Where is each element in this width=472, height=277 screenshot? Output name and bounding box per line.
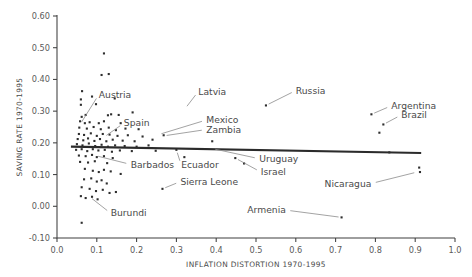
x-tick-label: 0.7 (329, 245, 342, 255)
x-tick-label: 0.2 (130, 245, 143, 255)
annotation-label: Spain (124, 117, 150, 128)
data-point (90, 132, 92, 134)
annotation-label: Sierra Leone (180, 176, 238, 187)
data-point (106, 182, 108, 184)
data-point (142, 135, 144, 137)
y-tick-label: 0.60 (32, 11, 50, 21)
data-point (92, 170, 94, 172)
data-point (341, 216, 343, 218)
data-point (101, 179, 103, 181)
data-point (100, 128, 102, 130)
data-point (110, 170, 112, 172)
y-tick-label: 0.00 (32, 201, 50, 211)
annotation-leader (374, 108, 387, 114)
data-point (78, 154, 80, 156)
annotation-label: Barbados (131, 159, 175, 170)
data-point (98, 171, 100, 173)
data-point (114, 144, 116, 146)
data-point (93, 140, 95, 142)
x-axis-title: INFLATION DISTORTION 1970-1995 (186, 260, 326, 269)
data-point (78, 133, 80, 135)
data-point (111, 151, 113, 153)
annotation-leader (376, 173, 414, 183)
annotation-label: Uruguay (259, 153, 299, 164)
data-point (97, 149, 99, 151)
data-point (163, 134, 165, 136)
data-point (107, 114, 109, 116)
data-point (382, 123, 384, 125)
data-point (119, 149, 121, 151)
data-point (370, 113, 372, 115)
data-point (97, 198, 99, 200)
annotation-leader (165, 183, 176, 187)
annotation-label: Latvia (198, 86, 226, 97)
data-point (91, 196, 93, 198)
data-point (103, 155, 105, 157)
data-point (86, 128, 88, 130)
data-point (108, 127, 110, 129)
data-point (134, 140, 136, 142)
y-tick-label: 0.10 (32, 170, 50, 180)
data-point (155, 150, 157, 152)
data-point (81, 222, 83, 224)
y-tick-label: 0.30 (32, 106, 50, 116)
data-point (78, 127, 80, 129)
y-axis-title: SAVING RATE 1970-1995 (15, 78, 24, 177)
plot-area: -0.100.000.100.200.300.400.500.600.00.10… (0, 0, 472, 277)
data-point (105, 140, 107, 142)
data-point (92, 148, 94, 150)
data-point (87, 161, 89, 163)
annotation-label: Nicaragua (325, 178, 372, 189)
y-tick-label: -0.10 (29, 233, 50, 243)
annotation-label: Russia (296, 85, 326, 96)
data-point (112, 157, 114, 159)
annotation-leader (238, 160, 257, 170)
data-point (81, 186, 83, 188)
data-point (91, 154, 93, 156)
data-point (96, 156, 98, 158)
annotation-label: Ecuador (181, 159, 219, 170)
x-tick-label: 0.6 (289, 245, 302, 255)
data-point (131, 150, 133, 152)
data-point (102, 189, 104, 191)
annotation-leader (167, 130, 202, 135)
data-point (108, 192, 110, 194)
data-point (147, 144, 149, 146)
annotation-leader (177, 153, 180, 161)
data-point (116, 135, 118, 137)
data-point (211, 140, 213, 142)
annotation-label: Brazil (401, 109, 427, 120)
scatter-chart: -0.100.000.100.200.300.400.500.600.00.10… (0, 0, 472, 277)
x-tick-label: 0.9 (409, 245, 422, 255)
data-point (108, 73, 110, 75)
data-point (76, 143, 78, 145)
data-point (84, 168, 86, 170)
data-point (110, 113, 112, 115)
data-point (91, 96, 93, 98)
data-point (138, 128, 140, 130)
data-point (98, 122, 100, 124)
data-point (103, 120, 105, 122)
data-point (84, 122, 86, 124)
data-point (101, 144, 103, 146)
data-point (102, 133, 104, 135)
data-point (120, 173, 122, 175)
data-point (103, 52, 105, 54)
data-point (106, 162, 108, 164)
data-point (151, 139, 153, 141)
data-point (104, 149, 106, 151)
data-point (99, 138, 101, 140)
data-point (80, 104, 82, 106)
data-point (85, 197, 87, 199)
data-point (81, 90, 83, 92)
data-point (127, 134, 129, 136)
data-point (77, 138, 79, 140)
data-point (82, 139, 84, 141)
annotation-label: Burundi (111, 207, 147, 218)
data-point (103, 169, 105, 171)
y-tick-label: 0.50 (32, 43, 50, 53)
data-point (161, 188, 163, 190)
annotation-leader (161, 121, 202, 133)
data-point (89, 188, 91, 190)
x-tick-label: 0.3 (170, 245, 183, 255)
